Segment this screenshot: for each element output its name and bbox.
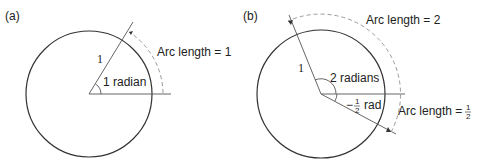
neg-angle-prefix: − [346,98,353,112]
radian-diagram: (a) 1 1 radian Arc length = 1 (b) 1 2 ra… [0,0,481,166]
panel-a-tag: (a) [5,9,20,23]
arc-label-b-top: Arc length = 2 [366,13,441,27]
panel-b: (b) 1 2 radians − 1 2 rad Arc length = 2… [243,9,471,158]
arc-label-b-den: 2 [466,112,471,121]
panel-a: (a) 1 1 radian Arc length = 1 [5,9,232,157]
arc-label-b-bottom: Arc length = [398,104,462,118]
panel-b-tag: (b) [243,9,258,23]
angle-label-b: 2 radians [330,71,379,85]
angle-marker-neg-half [335,94,337,101]
arrowhead-a [129,31,133,35]
angle-label-a: 1 radian [103,75,146,89]
radius-ray-2rad [289,15,321,94]
neg-angle-den: 2 [355,106,360,115]
radius-label-a: 1 [97,52,103,66]
neg-angle-num: 1 [355,97,360,106]
arc-label-b-num: 1 [466,103,471,112]
neg-angle-unit: rad [364,98,381,112]
angle-marker-a [96,84,102,94]
arc-label-a: Arc length = 1 [157,45,232,59]
radius-label-b: 1 [298,61,304,75]
